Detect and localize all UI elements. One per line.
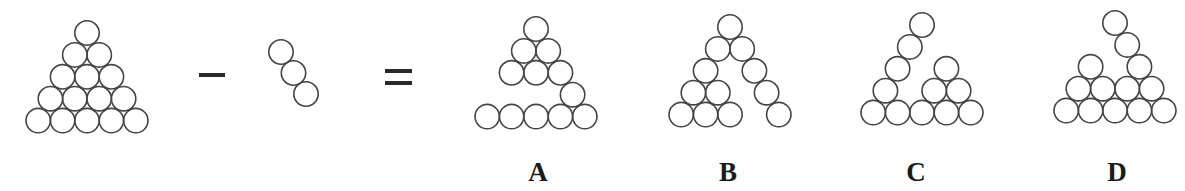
circle [124, 108, 148, 132]
circle [861, 100, 885, 124]
circle [718, 102, 742, 126]
circle [922, 79, 946, 103]
circle [1139, 77, 1163, 101]
circle [512, 39, 536, 63]
puzzle-diagram: A B C D [0, 0, 1185, 191]
removed-piece-figure [269, 40, 318, 106]
circle [38, 87, 62, 111]
circle [524, 104, 548, 128]
circle [693, 59, 717, 83]
circle [693, 102, 717, 126]
option-label-b: B [708, 157, 748, 188]
circle [910, 13, 934, 37]
circle [50, 108, 74, 132]
circle [681, 81, 705, 105]
circle [1152, 98, 1176, 122]
circle [873, 79, 897, 103]
circle [75, 21, 99, 45]
circle [26, 108, 50, 132]
circle [742, 59, 766, 83]
full-triangle-figure [26, 21, 148, 133]
circle [524, 61, 548, 85]
circle [269, 40, 293, 64]
circle [718, 15, 742, 39]
circles-canvas [0, 0, 1185, 191]
circle [1115, 33, 1139, 57]
circle [1091, 77, 1115, 101]
circle [281, 61, 305, 85]
circle [99, 65, 123, 89]
circle [111, 87, 135, 111]
circle [560, 83, 584, 107]
circle [75, 65, 99, 89]
minus-sign [199, 73, 225, 77]
circle [885, 57, 909, 81]
circle [294, 82, 318, 106]
circle [910, 100, 934, 124]
circle [1127, 98, 1151, 122]
circle [706, 37, 730, 61]
circle [63, 87, 87, 111]
circle [499, 61, 523, 85]
circle [50, 65, 74, 89]
circle [1127, 55, 1151, 79]
circle [475, 104, 499, 128]
circle [669, 102, 693, 126]
circle [87, 43, 111, 67]
circle [1054, 98, 1078, 122]
option-d-figure [1054, 11, 1176, 123]
circle [934, 57, 958, 81]
circle [730, 37, 754, 61]
equals-sign-top [385, 69, 412, 73]
circle [898, 35, 922, 59]
equals-sign-bottom [385, 81, 412, 85]
circle [573, 104, 597, 128]
circle [934, 100, 958, 124]
circle [75, 108, 99, 132]
circle [885, 100, 909, 124]
circle [1115, 77, 1139, 101]
option-c-figure [861, 13, 983, 125]
circle [1066, 77, 1090, 101]
option-label-c: C [896, 157, 936, 188]
option-label-d: D [1097, 157, 1137, 188]
option-label-a: A [518, 157, 558, 188]
circle [767, 102, 791, 126]
circle [548, 61, 572, 85]
option-a-figure [475, 17, 597, 129]
circle [99, 108, 123, 132]
circle [536, 39, 560, 63]
circle [946, 79, 970, 103]
circle [524, 17, 548, 41]
circle [548, 104, 572, 128]
circle [87, 87, 111, 111]
circle [1078, 98, 1102, 122]
circle [959, 100, 983, 124]
circle [499, 104, 523, 128]
circle [706, 81, 730, 105]
circle [1103, 11, 1127, 35]
circle [1078, 55, 1102, 79]
option-b-figure [669, 15, 791, 127]
circle [63, 43, 87, 67]
circle [1103, 98, 1127, 122]
circle [754, 81, 778, 105]
